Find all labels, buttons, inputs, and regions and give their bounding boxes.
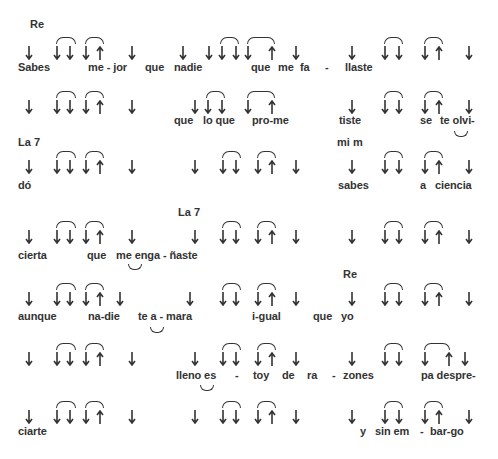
- lyric-syllable: -: [420, 425, 424, 437]
- lyric-syllable: que: [87, 249, 106, 261]
- chord-label: La 7: [18, 136, 40, 148]
- strum-up-arrow-icon: [268, 292, 276, 306]
- strum-down-arrow-icon: [465, 230, 473, 244]
- strum-down-arrow-icon: [128, 100, 136, 114]
- strum-down-arrow-icon: [381, 410, 389, 424]
- strum-down-arrow-icon: [292, 160, 300, 174]
- strum-down-arrow-icon: [25, 352, 33, 366]
- tie-arc-icon: [56, 283, 76, 290]
- strum-up-arrow-icon: [268, 352, 276, 366]
- strum-up-arrow-icon: [435, 410, 443, 424]
- strum-down-arrow-icon: [465, 410, 473, 424]
- lyric-syllable: se: [420, 114, 432, 126]
- strum-down-arrow-icon: [205, 46, 213, 60]
- strum-down-arrow-icon: [191, 160, 199, 174]
- strum-down-arrow-icon: [53, 230, 61, 244]
- strum-down-arrow-icon: [465, 46, 473, 60]
- lyric-syllable: cierta: [18, 249, 47, 261]
- lyric-syllable: -: [235, 369, 239, 381]
- strum-down-arrow-icon: [82, 352, 90, 366]
- tie-arc-icon: [257, 221, 276, 228]
- strum-down-arrow-icon: [218, 46, 226, 60]
- lyric-syllable: te olvi-: [440, 114, 475, 126]
- strum-down-arrow-icon: [254, 230, 262, 244]
- tie-arc-icon: [85, 151, 104, 158]
- lyric-syllable: lo que: [203, 114, 235, 126]
- strum-down-arrow-icon: [254, 160, 262, 174]
- strum-up-arrow-icon: [96, 292, 104, 306]
- strum-down-arrow-icon: [66, 230, 74, 244]
- lyric-syllable: lleno es: [176, 369, 216, 381]
- lyric-syllable: dó: [18, 179, 31, 191]
- strum-up-arrow-icon: [435, 100, 443, 114]
- strum-down-arrow-icon: [25, 100, 33, 114]
- tie-arc-icon: [384, 343, 403, 350]
- strum-down-arrow-icon: [421, 46, 429, 60]
- strum-down-arrow-icon: [232, 292, 240, 306]
- lyric-syllable: que: [313, 310, 332, 322]
- strum-down-arrow-icon: [191, 100, 199, 114]
- strum-down-arrow-icon: [395, 160, 403, 174]
- strum-down-arrow-icon: [348, 100, 356, 114]
- tie-arc-icon: [384, 221, 403, 228]
- strum-down-arrow-icon: [244, 100, 252, 114]
- tie-arc-icon: [257, 283, 276, 290]
- lyric-syllable: llaste: [345, 61, 373, 73]
- lyric-syllable: Sabes: [18, 61, 50, 73]
- lyric-syllable: i-gual: [252, 310, 281, 322]
- strum-down-arrow-icon: [348, 352, 356, 366]
- lyric-syllable: sin em: [375, 425, 409, 437]
- strum-down-arrow-icon: [25, 292, 33, 306]
- tie-arc-icon: [384, 37, 403, 44]
- strum-down-arrow-icon: [465, 292, 473, 306]
- strum-up-arrow-icon: [268, 46, 276, 60]
- tie-arc-icon: [220, 37, 239, 44]
- lyric-syllable: sabes: [338, 179, 369, 191]
- tie-arc-icon: [56, 37, 76, 44]
- tie-arc-icon: [85, 221, 104, 228]
- strum-down-arrow-icon: [82, 160, 90, 174]
- strum-down-arrow-icon: [128, 160, 136, 174]
- tie-arc-icon: [56, 401, 76, 408]
- tie-arc-icon: [247, 91, 275, 98]
- strum-down-arrow-icon: [465, 100, 473, 114]
- strum-down-arrow-icon: [395, 410, 403, 424]
- strum-down-arrow-icon: [53, 46, 61, 60]
- strum-down-arrow-icon: [128, 410, 136, 424]
- tie-arc-icon: [222, 221, 241, 228]
- strum-down-arrow-icon: [116, 292, 124, 306]
- lyric-syllable: aunque: [18, 310, 57, 322]
- lyric-syllable: nadie: [174, 61, 202, 73]
- strum-down-arrow-icon: [25, 46, 33, 60]
- strum-down-arrow-icon: [191, 230, 199, 244]
- lyric-syllable: -: [325, 61, 329, 73]
- strum-down-arrow-icon: [395, 100, 403, 114]
- tie-arc-icon: [222, 401, 241, 408]
- strum-down-arrow-icon: [53, 160, 61, 174]
- strum-up-arrow-icon: [268, 410, 276, 424]
- strum-up-arrow-icon: [96, 230, 104, 244]
- strum-down-arrow-icon: [348, 230, 356, 244]
- tie-arc-icon: [424, 283, 443, 290]
- strum-down-arrow-icon: [421, 230, 429, 244]
- tie-arc-icon: [56, 343, 76, 350]
- strum-down-arrow-icon: [53, 100, 61, 114]
- tie-arc-icon: [257, 343, 276, 350]
- strum-down-arrow-icon: [232, 46, 240, 60]
- strum-up-arrow-icon: [96, 352, 104, 366]
- tie-arc-icon: [257, 401, 276, 408]
- strum-down-arrow-icon: [395, 46, 403, 60]
- lyric-syllable: y: [360, 425, 366, 437]
- strum-down-arrow-icon: [292, 410, 300, 424]
- strum-down-arrow-icon: [232, 160, 240, 174]
- strum-down-arrow-icon: [128, 230, 136, 244]
- strum-up-arrow-icon: [268, 230, 276, 244]
- tie-arc-icon: [247, 37, 275, 44]
- strum-up-arrow-icon: [96, 410, 104, 424]
- strum-down-arrow-icon: [219, 292, 227, 306]
- strum-down-arrow-icon: [465, 160, 473, 174]
- strum-down-arrow-icon: [421, 160, 429, 174]
- tie-arc-icon: [56, 151, 76, 158]
- lyric-syllable: ciencia: [435, 179, 472, 191]
- strum-down-arrow-icon: [395, 230, 403, 244]
